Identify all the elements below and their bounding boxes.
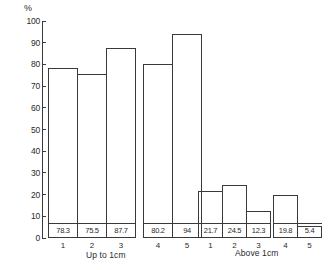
bar-category-label: 5 — [297, 241, 322, 250]
y-axis-tick-label: 0 — [0, 234, 40, 242]
bar: 75.52 — [77, 74, 107, 238]
y-axis-tick — [42, 129, 46, 130]
bar-category-label: 4 — [143, 241, 173, 250]
y-axis-tick — [42, 64, 46, 65]
bar: 21.71 — [198, 191, 223, 238]
bar-category-label: 1 — [48, 241, 78, 250]
y-axis-tick-label: 90 — [0, 39, 40, 47]
y-axis-tick-value: 40 — [14, 147, 40, 155]
bar-category-label: 1 — [198, 241, 223, 250]
bar: 5.45 — [297, 226, 322, 238]
bar-value-label: 87.7 — [106, 223, 136, 237]
y-axis-tick — [42, 21, 46, 22]
y-axis-tick-value: 30 — [14, 169, 40, 177]
y-axis-tick-label: 70 — [0, 82, 40, 90]
y-axis-tick-label: 50 — [0, 126, 40, 134]
y-axis-tick — [42, 216, 46, 217]
bar-value-label: 80.2 — [143, 223, 173, 237]
y-axis-tick-label: 20 — [0, 191, 40, 199]
y-axis-tick-value: 60 — [14, 104, 40, 112]
y-axis-tick — [42, 86, 46, 87]
y-axis-tick — [42, 42, 46, 43]
y-axis-tick-label: 30 — [0, 169, 40, 177]
y-axis-tick-label: 100 — [0, 17, 40, 25]
bar-value-label: 78.3 — [48, 223, 78, 237]
bar-category-label: 3 — [106, 241, 136, 250]
y-axis-tick — [42, 172, 46, 173]
bar: 78.31 — [48, 68, 78, 238]
bar-chart: % 0102030405060708090100 78.3175.5287.73… — [0, 0, 328, 270]
bar-value-label: 21.7 — [198, 223, 223, 237]
y-axis-tick-label: 40 — [0, 147, 40, 155]
bar-value-label: 19.8 — [273, 223, 298, 237]
y-axis-tick-label: 80 — [0, 60, 40, 68]
y-axis-tick-value: 10 — [14, 212, 40, 220]
y-axis-tick-value: 50 — [14, 126, 40, 134]
bar-value-label: 75.5 — [77, 223, 107, 237]
bar: 80.24 — [143, 64, 173, 238]
y-axis-tick-value: 20 — [14, 191, 40, 199]
y-axis-tick — [42, 107, 46, 108]
y-axis-tick — [42, 194, 46, 195]
bar: 24.52 — [222, 185, 247, 238]
y-axis-tick — [42, 151, 46, 152]
bar: 12.33 — [246, 211, 271, 238]
y-axis-tick-value: 0 — [14, 234, 40, 242]
bar-category-label: 2 — [77, 241, 107, 250]
y-axis-tick-value: 70 — [14, 82, 40, 90]
y-axis-tick-value: 90 — [14, 39, 40, 47]
y-axis-tick-value: 80 — [14, 60, 40, 68]
bar-value-label: 12.3 — [246, 223, 271, 237]
y-axis-tick-label: 10 — [0, 212, 40, 220]
bar: 87.73 — [106, 48, 136, 238]
bar: 19.84 — [273, 195, 298, 238]
y-axis-tick — [42, 238, 46, 239]
y-axis-tick-value: 100 — [14, 17, 40, 25]
y-axis-unit-label: % — [24, 3, 32, 13]
bar-value-label: 24.5 — [222, 223, 247, 237]
bar-value-label: 5.4 — [297, 223, 322, 237]
y-axis-tick-label: 60 — [0, 104, 40, 112]
group-caption: Above 1cm — [235, 248, 278, 258]
group-caption: Up to 1cm — [86, 250, 126, 260]
